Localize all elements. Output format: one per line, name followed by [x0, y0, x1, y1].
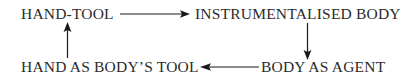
arrow-hand-as-bodys-tool-to-hand-tool — [64, 22, 72, 58]
arrow-instrumentalised-body-to-body-as-agent — [304, 23, 312, 60]
node-instrumentalised-body: INSTRUMENTALISED BODY — [195, 6, 401, 22]
node-hand-as-bodys-tool: HAND AS BODY’S TOOL — [21, 59, 199, 75]
node-body-as-agent: BODY AS AGENT — [261, 59, 385, 75]
arrow-hand-tool-to-instrumentalised-body — [120, 10, 190, 17]
arrow-body-as-agent-to-hand-as-bodys-tool — [200, 63, 259, 71]
diagram-canvas: HAND-TOOL INSTRUMENTALISED BODY HAND AS … — [0, 0, 411, 82]
node-hand-tool: HAND-TOOL — [21, 6, 114, 22]
